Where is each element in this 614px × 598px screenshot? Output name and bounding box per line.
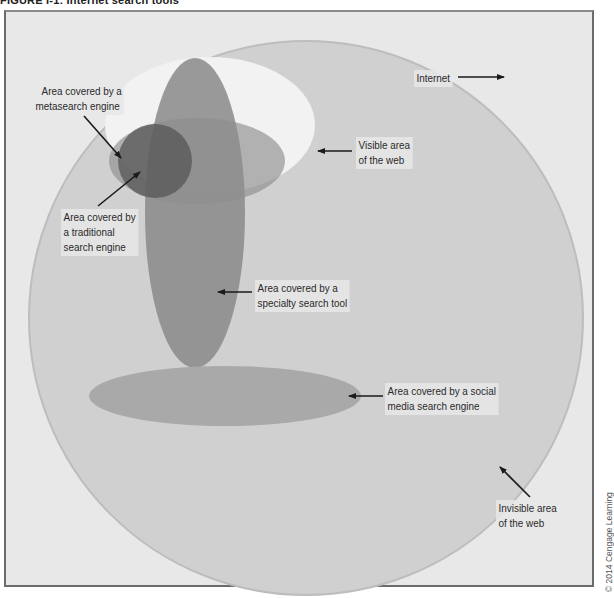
social-media-ellipse	[89, 366, 361, 426]
label-invisible-web-line1: Invisible area	[499, 501, 557, 516]
metasearch-circle	[118, 124, 192, 198]
label-social-media-line1: Area covered by a social	[388, 384, 496, 399]
label-visible-web: Visible area of the web	[356, 137, 413, 169]
label-specialty-line2: specialty search tool	[258, 296, 348, 311]
label-invisible-web-line2: of the web	[499, 516, 557, 531]
specialty-search-ellipse	[145, 58, 245, 368]
label-traditional-line3: search engine	[64, 240, 136, 255]
label-specialty-line1: Area covered by a	[258, 281, 348, 296]
label-social-media-line2: media search engine	[388, 399, 496, 414]
label-traditional-line1: Area covered by	[64, 210, 136, 225]
label-social-media: Area covered by a social media search en…	[385, 383, 498, 415]
label-metasearch-line2: metasearch engine	[36, 99, 122, 114]
label-traditional-line2: a traditional	[64, 225, 136, 240]
label-internet: Internet	[414, 70, 453, 87]
copyright-credit: © 2014 Cengage Learning	[604, 492, 614, 592]
label-visible-web-line1: Visible area	[359, 138, 411, 153]
label-internet-text: Internet	[417, 71, 451, 86]
label-metasearch: Area covered by a metasearch engine	[33, 83, 124, 115]
label-traditional: Area covered by a traditional search eng…	[61, 209, 138, 256]
label-metasearch-line1: Area covered by a	[36, 84, 122, 99]
label-specialty: Area covered by a specialty search tool	[255, 280, 350, 312]
label-invisible-web: Invisible area of the web	[496, 500, 559, 532]
label-visible-web-line2: of the web	[359, 153, 411, 168]
